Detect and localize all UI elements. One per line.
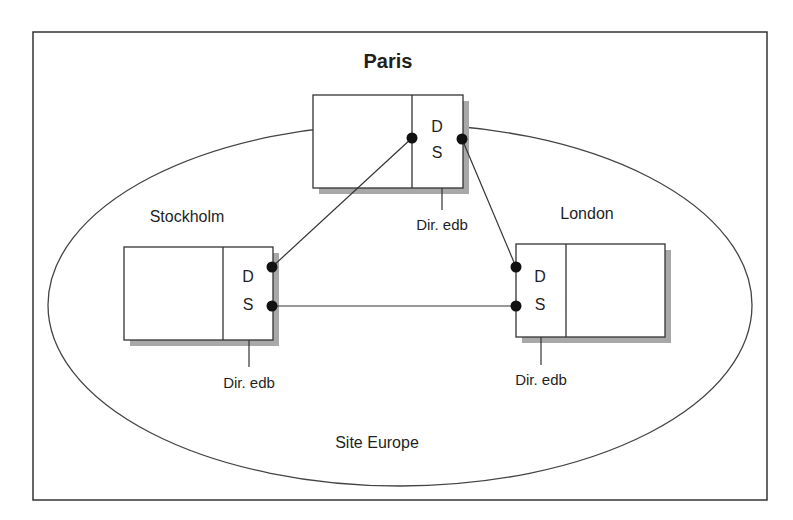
site-label: Site Europe bbox=[335, 434, 419, 451]
london-label: London bbox=[560, 205, 613, 222]
stockholm-port-upper-dot bbox=[267, 262, 278, 273]
paris-db-label: Dir. edb bbox=[416, 216, 468, 233]
paris-ds-s: S bbox=[432, 144, 443, 161]
paris-port-right-dot bbox=[457, 134, 468, 145]
london-port-upper-dot bbox=[511, 262, 522, 273]
replication-diagram: Paris D S Dir. edb Stockholm D S Dir. ed… bbox=[0, 0, 793, 520]
london-ds-d: D bbox=[534, 268, 546, 285]
stockholm-box bbox=[124, 247, 273, 340]
stockholm-ds-s: S bbox=[243, 296, 254, 313]
stockholm-db-label: Dir. edb bbox=[223, 374, 275, 391]
stockholm-ds-d: D bbox=[242, 268, 254, 285]
stockholm-label: Stockholm bbox=[150, 208, 225, 225]
london-db-label: Dir. edb bbox=[515, 371, 567, 388]
paris-ds-d: D bbox=[431, 118, 443, 135]
london-box bbox=[516, 244, 665, 337]
server-stockholm: Stockholm D S Dir. edb bbox=[124, 208, 279, 391]
paris-port-left-dot bbox=[407, 133, 418, 144]
diagram-title: Paris bbox=[364, 50, 413, 72]
london-ds-s: S bbox=[535, 296, 546, 313]
paris-box bbox=[313, 95, 463, 188]
server-paris: D S Dir. edb bbox=[313, 95, 469, 233]
london-port-lower-dot bbox=[511, 301, 522, 312]
stockholm-port-lower-dot bbox=[267, 301, 278, 312]
link-paris-london bbox=[462, 139, 516, 267]
server-london: London D S Dir. edb bbox=[515, 205, 671, 388]
